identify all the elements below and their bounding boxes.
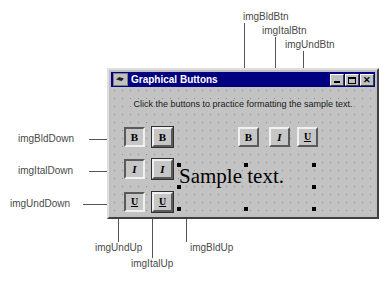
imgitaldown-image[interactable]: I	[124, 159, 145, 179]
window-title: Graphical Buttons	[131, 73, 330, 86]
imgundbtn-button[interactable]: U	[297, 127, 318, 147]
selection-handle[interactable]	[312, 163, 316, 167]
callout-label-imgitalup: imgItalUp	[131, 258, 173, 269]
vb-form-icon	[113, 73, 128, 86]
bold-icon: B	[131, 132, 138, 142]
underline-icon: U	[159, 197, 166, 207]
imgbldup-image[interactable]: B	[152, 127, 173, 147]
minimize-icon	[334, 81, 340, 83]
form-client-area: Click the buttons to practice formatting…	[111, 87, 375, 215]
callout-label-imgbldbtn: imgBldBtn	[243, 11, 289, 22]
maximize-button[interactable]	[345, 74, 359, 86]
close-icon: ✕	[361, 75, 373, 85]
selection-handle[interactable]	[244, 163, 248, 167]
italic-icon: I	[132, 164, 136, 174]
callout-label-imgunddown: imgUndDown	[10, 198, 70, 209]
sample-text-label[interactable]: Sample text.	[179, 165, 284, 187]
minimize-button[interactable]	[330, 74, 344, 86]
selection-handle[interactable]	[177, 163, 181, 167]
imgitalup-image[interactable]: I	[152, 159, 173, 179]
imgbldbtn-button[interactable]: B	[238, 127, 259, 147]
bold-icon: B	[245, 132, 252, 142]
imgitalbtn-button[interactable]: I	[269, 127, 290, 147]
instruction-label: Click the buttons to practice formatting…	[111, 99, 375, 109]
imgblddown-image[interactable]: B	[124, 127, 145, 147]
close-button[interactable]: ✕	[360, 74, 374, 86]
window-titlebar[interactable]: Graphical Buttons ✕	[111, 72, 375, 87]
underline-icon: U	[304, 132, 311, 142]
callout-label-imgundup: imgUndUp	[95, 242, 142, 253]
maximize-icon	[348, 77, 356, 84]
callout-label-imgitalbtn: imgItalBtn	[262, 25, 306, 36]
figure-canvas: imgBldBtn imgItalBtn imgUndBtn imgBldDow…	[0, 0, 387, 281]
callout-label-imgundbtn: imgUndBtn	[285, 39, 334, 50]
italic-icon: I	[277, 132, 281, 142]
selection-handle[interactable]	[312, 207, 316, 211]
selection-handle[interactable]	[244, 207, 248, 211]
imgundup-image[interactable]: U	[152, 192, 173, 212]
callout-label-imgblddown: imgBldDown	[18, 133, 74, 144]
selection-handle[interactable]	[177, 185, 181, 189]
italic-icon: I	[160, 164, 164, 174]
selection-handle[interactable]	[312, 185, 316, 189]
callout-label-imgitaldown: imgItalDown	[18, 165, 73, 176]
callout-label-imgbldup: imgBldUp	[190, 242, 233, 253]
imgunddown-image[interactable]: U	[124, 192, 145, 212]
underline-icon: U	[131, 197, 138, 207]
window-controls: ✕	[330, 74, 374, 86]
graphical-buttons-window: Graphical Buttons ✕ Click the buttons to…	[107, 68, 379, 219]
bold-icon: B	[159, 132, 166, 142]
selection-handle[interactable]	[177, 207, 181, 211]
